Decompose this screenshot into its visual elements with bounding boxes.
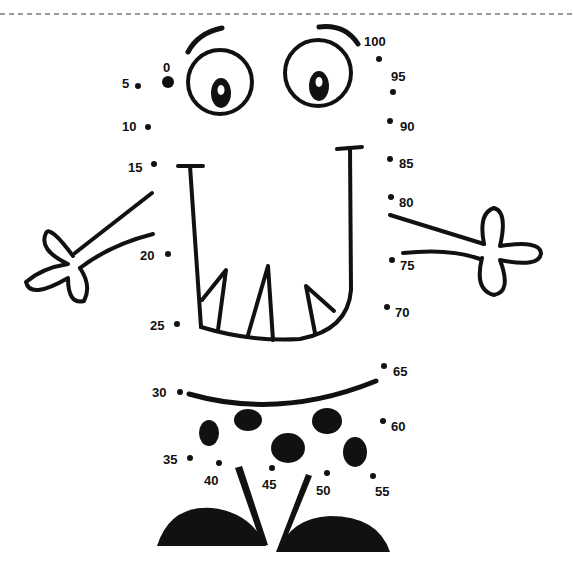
spots-icon <box>199 408 367 467</box>
dot-label-75: 75 <box>400 259 414 272</box>
dot-label-60: 60 <box>391 420 405 433</box>
dot-label-45: 45 <box>262 478 276 491</box>
dot-label-5: 5 <box>122 77 129 90</box>
dot-85[interactable] <box>387 156 393 162</box>
dot-25[interactable] <box>174 321 180 327</box>
dot-55[interactable] <box>370 473 376 479</box>
dot-label-30: 30 <box>152 386 166 399</box>
dot-75[interactable] <box>389 257 395 263</box>
dot-label-85: 85 <box>399 157 413 170</box>
dot-label-80: 80 <box>399 196 413 209</box>
dot-15[interactable] <box>151 161 157 167</box>
dot-label-50: 50 <box>316 484 330 497</box>
left-arm-hand-icon <box>26 193 153 302</box>
dot-30[interactable] <box>177 389 183 395</box>
dot-label-35: 35 <box>163 453 177 466</box>
dot-label-100: 100 <box>364 35 386 48</box>
left-eye-icon <box>188 50 252 114</box>
right-arm-hand-icon <box>390 208 541 295</box>
dot-10[interactable] <box>145 124 151 130</box>
dot-90[interactable] <box>387 118 393 124</box>
right-eye-icon <box>285 40 351 106</box>
dot-label-90: 90 <box>400 120 414 133</box>
dot-65[interactable] <box>381 363 387 369</box>
dot-20[interactable] <box>165 251 171 257</box>
dot-35[interactable] <box>187 455 193 461</box>
dot-label-55: 55 <box>375 485 389 498</box>
dot-50[interactable] <box>324 470 330 476</box>
dot-label-95: 95 <box>391 70 405 83</box>
dot-label-65: 65 <box>393 365 407 378</box>
dot-70[interactable] <box>384 304 390 310</box>
dot-label-15: 15 <box>128 161 142 174</box>
dot-label-0: 0 <box>163 61 170 74</box>
dot-label-10: 10 <box>122 120 136 133</box>
dot-95[interactable] <box>390 89 396 95</box>
monster-figure <box>26 27 541 552</box>
belly-line-icon <box>189 381 376 404</box>
dot-to-dot-worksheet <box>0 0 573 579</box>
dot-60[interactable] <box>380 418 386 424</box>
dot-5[interactable] <box>135 83 141 89</box>
dot-80[interactable] <box>388 194 394 200</box>
feet-icon <box>157 508 390 552</box>
mouth-icon <box>178 147 362 340</box>
dot-label-40: 40 <box>204 474 218 487</box>
dot-40[interactable] <box>216 460 222 466</box>
dot-label-20: 20 <box>140 249 154 262</box>
dot-0[interactable] <box>162 76 174 88</box>
dot-label-25: 25 <box>150 319 164 332</box>
dot-45[interactable] <box>269 465 275 471</box>
dot-label-70: 70 <box>395 306 409 319</box>
dot-100[interactable] <box>376 56 382 62</box>
